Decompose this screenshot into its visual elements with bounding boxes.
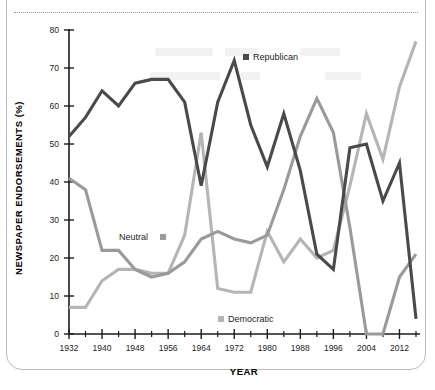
series-line-republican: [69, 60, 416, 318]
x-axis-tick-label: 1996: [324, 343, 343, 353]
legend-neutral: Neutral: [119, 232, 166, 242]
series-line-democratic: [69, 41, 416, 307]
y-axis-tick-label: 10: [50, 291, 60, 301]
x-axis-tick-label: 1988: [291, 343, 310, 353]
x-axis-tick-label: 1980: [258, 343, 277, 353]
y-axis-tick-label: 80: [50, 25, 60, 35]
x-axis-title: YEAR: [230, 366, 258, 377]
y-axis-tick-label: 70: [50, 63, 60, 73]
legend-democratic: Democratic: [218, 314, 274, 324]
y-axis-tick-label: 40: [50, 177, 60, 187]
legend-label-republican: Republican: [253, 52, 298, 62]
y-axis-tick-label: 20: [50, 253, 60, 263]
y-axis-tick-label: 60: [50, 101, 60, 111]
x-axis-tick-label: 1956: [159, 343, 178, 353]
x-axis-tick-label: 1948: [126, 343, 145, 353]
chart-series: [69, 41, 416, 334]
y-axis-tick-label: 0: [54, 329, 59, 339]
legend-swatch-democratic: [218, 316, 224, 322]
x-axis-tick-label: 1932: [60, 343, 79, 353]
line-chart: 01020304050607080 1932194019481956196419…: [0, 0, 435, 390]
x-axis-tick-label: 1940: [93, 343, 112, 353]
x-axis-tick-label: 1964: [192, 343, 211, 353]
chart-page: 01020304050607080 1932194019481956196419…: [0, 0, 435, 390]
x-axis-tick-labels: 1932194019481956196419721980198819962004…: [60, 343, 410, 353]
x-axis-tick-label: 2012: [390, 343, 409, 353]
legend-swatch-neutral: [160, 234, 166, 240]
series-line-neutral: [69, 98, 416, 334]
y-axis-title: NEWSPAPER ENDORSEMENTS (%): [13, 101, 24, 275]
x-axis-tick-label: 2004: [357, 343, 376, 353]
y-axis-tick-label: 30: [50, 215, 60, 225]
chart-svg: 01020304050607080 1932194019481956196419…: [0, 0, 435, 390]
y-axis-tick-labels: 01020304050607080: [50, 25, 60, 339]
x-axis-tick-label: 1972: [225, 343, 244, 353]
chart-axes: 01020304050607080 1932194019481956196419…: [50, 25, 420, 353]
legend-swatch-republican: [243, 54, 249, 60]
y-axis-tick-label: 50: [50, 139, 60, 149]
legend-label-neutral: Neutral: [119, 232, 148, 242]
legend-label-democratic: Democratic: [228, 314, 274, 324]
